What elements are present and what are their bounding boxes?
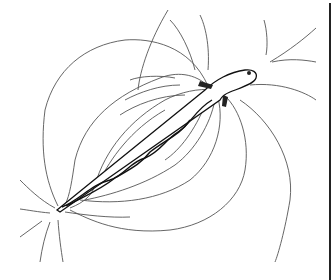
field-lines-tail [20, 180, 130, 262]
right-border-line [329, 3, 331, 280]
eel-field-illustration [0, 0, 332, 280]
eel-body [57, 70, 256, 212]
eel-field-drawing [0, 0, 332, 280]
